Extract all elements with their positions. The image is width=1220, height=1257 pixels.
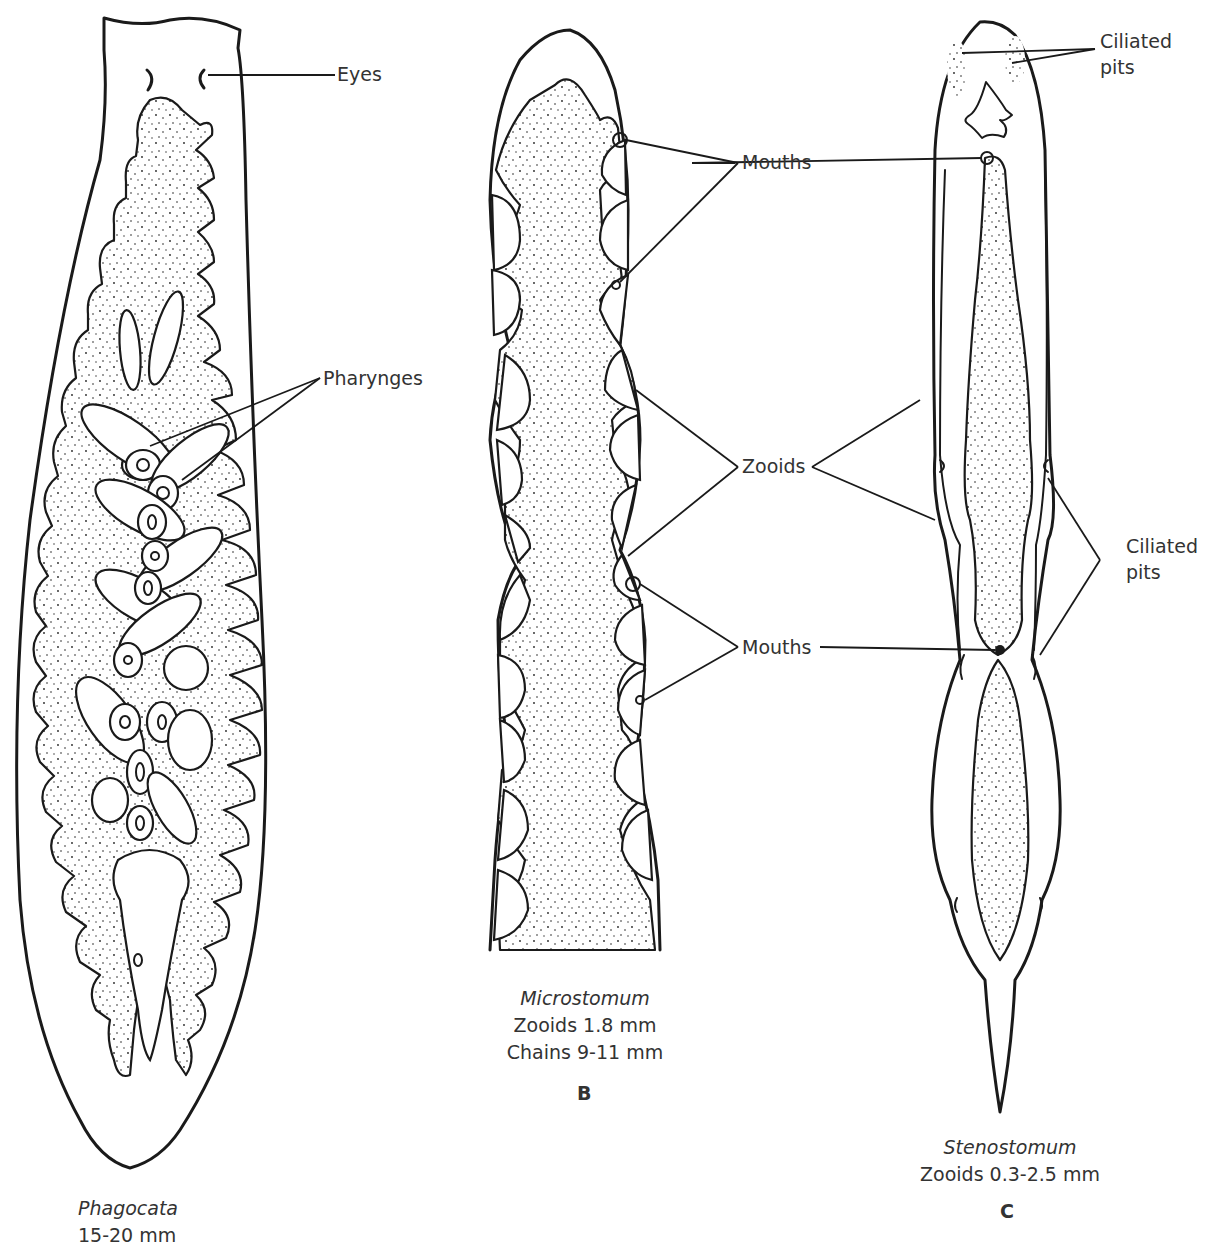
- label-zooids: Zooids: [742, 455, 806, 478]
- size-range: 15-20 mm: [78, 1222, 178, 1249]
- eye-right-icon: [200, 70, 204, 88]
- caption-phagocata: Phagocata 15-20 mm: [78, 1195, 178, 1249]
- label-line: pits: [1100, 56, 1135, 78]
- label-mouths-top: Mouths: [742, 151, 811, 174]
- label-ciliated-pits-middle: Ciliated pits: [1126, 533, 1198, 585]
- size-chains: Chains 9-11 mm: [490, 1039, 680, 1066]
- phagocata-drawing: [17, 18, 335, 1168]
- label-mouths-bottom: Mouths: [742, 636, 811, 659]
- caption-microstomum: Microstomum Zooids 1.8 mm Chains 9-11 mm: [490, 985, 680, 1066]
- eye-left-icon: [147, 70, 152, 90]
- genus-name: Microstomum: [490, 985, 680, 1012]
- genus-name: Stenostomum: [910, 1134, 1110, 1161]
- label-ciliated-pits-top: Ciliated pits: [1100, 28, 1172, 80]
- size-range: Zooids 0.3-2.5 mm: [910, 1161, 1110, 1188]
- label-eyes: Eyes: [337, 63, 382, 86]
- panel-letter-c: C: [1000, 1200, 1014, 1222]
- size-zooids: Zooids 1.8 mm: [490, 1012, 680, 1039]
- panel-letter-b: B: [577, 1082, 591, 1104]
- label-line: Ciliated: [1126, 535, 1198, 557]
- microstomum-drawing: [490, 30, 738, 950]
- label-line: pits: [1126, 561, 1161, 583]
- genus-name: Phagocata: [78, 1195, 178, 1222]
- caption-stenostomum: Stenostomum Zooids 0.3-2.5 mm: [910, 1134, 1110, 1188]
- label-pharynges: Pharynges: [323, 367, 423, 390]
- flatworm-illustrations: [0, 0, 1220, 1257]
- label-line: Ciliated: [1100, 30, 1172, 52]
- stenostomum-drawing: [692, 22, 1100, 1112]
